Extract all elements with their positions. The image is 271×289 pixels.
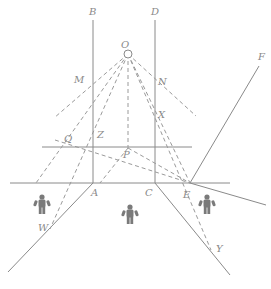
O-M-ray <box>54 54 128 118</box>
label-B: B <box>88 6 96 17</box>
label-P: P <box>122 149 130 160</box>
label-O: O <box>121 39 129 50</box>
O-Y-ray <box>128 54 211 250</box>
label-N: N <box>157 76 168 87</box>
label-A: A <box>90 187 98 198</box>
wall-C-down <box>155 183 230 275</box>
label-W: W <box>38 222 49 233</box>
label-Z: Z <box>96 129 105 140</box>
label-D: D <box>150 6 159 17</box>
label-C: C <box>145 187 153 198</box>
person-left-icon <box>33 194 51 214</box>
label-M: M <box>73 74 85 85</box>
person-center-icon <box>121 204 139 224</box>
label-X: X <box>157 109 166 120</box>
Q-E-line <box>55 140 190 183</box>
point-labels: BDOMNXZQPFACEWY <box>38 6 266 254</box>
label-E: E <box>182 189 191 200</box>
label-F: F <box>257 51 266 62</box>
mirror-diagram: BDOMNXZQPFACEWY <box>0 0 271 289</box>
solid-lines <box>8 20 266 275</box>
line-EF <box>190 66 259 183</box>
eye-point-icon <box>124 50 132 58</box>
O-W-ray <box>50 54 128 229</box>
label-Y: Y <box>216 243 224 254</box>
person-right-icon <box>198 194 216 214</box>
label-Q: Q <box>64 133 72 144</box>
